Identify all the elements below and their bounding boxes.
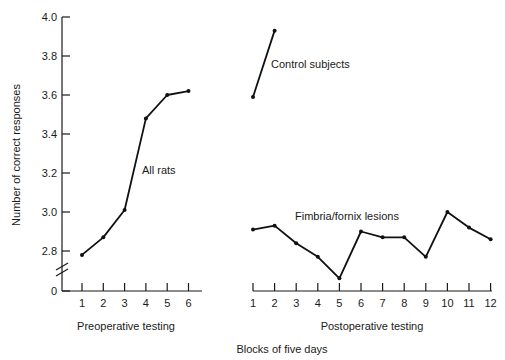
y-tick-label: 3.2 [42, 167, 57, 179]
data-point [251, 95, 255, 99]
data-point [424, 255, 428, 259]
y-tick-label: 4.0 [42, 11, 57, 23]
y-tick-label: 2.8 [42, 245, 57, 257]
x-tick-label: 9 [423, 297, 429, 309]
data-point [294, 241, 298, 245]
postoperative-panel-label: Postoperative testing [321, 320, 424, 332]
x-axis-postoperative: 123456789101112 [250, 283, 497, 309]
x-tick-label: 7 [380, 297, 386, 309]
data-point [445, 210, 449, 214]
x-tick-label: 4 [315, 297, 321, 309]
annotation-control-subjects: Control subjects [271, 58, 350, 70]
x-tick-label: 3 [293, 297, 299, 309]
data-point [467, 226, 471, 230]
y-tick-label: 0 [51, 285, 57, 297]
x-tick-label: 3 [122, 297, 128, 309]
x-tick-label: 1 [79, 297, 85, 309]
data-point [101, 235, 105, 239]
x-tick-label: 10 [441, 297, 453, 309]
x-tick-label: 6 [358, 297, 364, 309]
y-tick-label: 3.4 [42, 128, 57, 140]
x-tick-label: 4 [143, 297, 149, 309]
data-point [489, 237, 493, 241]
y-axis: 4.03.83.63.43.23.02.80 [42, 11, 70, 297]
y-tick-label: 3.6 [42, 89, 57, 101]
data-point [273, 224, 277, 228]
data-point [337, 276, 341, 280]
y-axis-label: Number of correct responses [10, 84, 22, 226]
data-point [316, 255, 320, 259]
annotation-all-rats: All rats [142, 164, 176, 176]
data-point [359, 230, 363, 234]
x-tick-label: 2 [100, 297, 106, 309]
x-tick-label: 6 [185, 297, 191, 309]
x-tick-label: 5 [164, 297, 170, 309]
x-tick-label: 12 [484, 297, 496, 309]
data-point [80, 253, 84, 257]
x-tick-label: 1 [250, 297, 256, 309]
y-tick-label: 3.0 [42, 206, 57, 218]
x-tick-label: 8 [401, 297, 407, 309]
data-point [165, 93, 169, 97]
x-tick-label: 5 [336, 297, 342, 309]
data-point [123, 208, 127, 212]
annotation-fimbria-fornix: Fimbria/fornix lesions [295, 210, 399, 222]
data-point [251, 228, 255, 232]
x-axis-preoperative: 123456 [62, 283, 202, 309]
data-point [381, 235, 385, 239]
x-tick-label: 2 [272, 297, 278, 309]
data-point [402, 235, 406, 239]
data-point [273, 29, 277, 33]
preoperative-panel-label: Preoperative testing [77, 320, 175, 332]
x-axis-label: Blocks of five days [236, 343, 328, 355]
y-tick-label: 3.8 [42, 50, 57, 62]
line-chart: 4.03.83.63.43.23.02.80 Number of correct… [0, 0, 505, 360]
x-tick-label: 11 [463, 297, 474, 309]
data-point [144, 116, 148, 120]
data-point [187, 89, 191, 93]
